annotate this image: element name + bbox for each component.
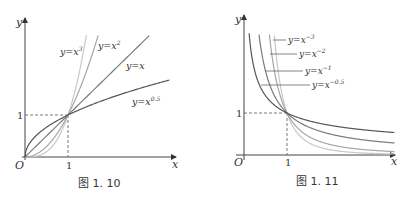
curve-label-x-3: y=x−3 (287, 33, 315, 45)
y-axis-label: y (234, 13, 242, 26)
curve-power-neg-3 (274, 35, 394, 154)
curve-label-x05: y=x0.5 (131, 95, 160, 107)
origin-label: O (234, 156, 243, 169)
origin-label: O (15, 159, 24, 172)
figure-1-10: y x O 1 1 y=x3 y=x2 y=x y=x0.5 (15, 16, 179, 172)
curve-label-x-2: y=x−2 (298, 47, 326, 59)
x-axis-label: x (172, 158, 179, 171)
x-tick-label: 1 (66, 160, 72, 171)
curve-label-x-1: y=x−1 (304, 64, 332, 76)
curve-label-x-05: y=x−0.5 (311, 78, 344, 90)
figure-1-11: y x O 1 1 y=x−3 y=x−2 y=x−1 y=x−0.5 (234, 13, 398, 169)
y-tick-label: 1 (17, 110, 23, 121)
figure-caption-1-10: 图 1. 10 (78, 174, 121, 190)
curve-power-0.5 (25, 80, 169, 157)
y-tick-label: 1 (236, 108, 242, 119)
power-function-diagrams: y x O 1 1 y=x3 y=x2 y=x y=x0.5 y x O 1 1… (0, 0, 403, 200)
curve-power-1 (25, 36, 149, 157)
x-axis-label: x (391, 155, 398, 168)
figure-caption-1-11: 图 1. 11 (296, 172, 339, 188)
curve-label-x3: y=x3 (59, 45, 83, 57)
curve-label-x2: y=x2 (97, 39, 121, 51)
x-tick-label: 1 (285, 157, 291, 168)
curve-label-x: y=x (125, 60, 145, 71)
y-axis-label: y (15, 16, 23, 29)
